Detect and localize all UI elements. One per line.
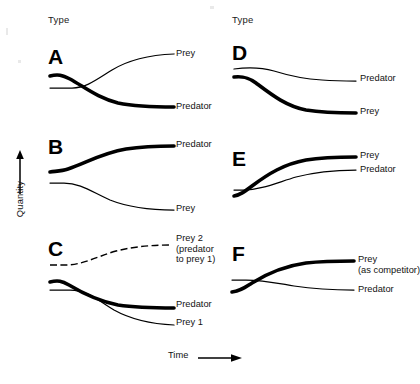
panel-e-label-predator: Predator	[360, 164, 396, 175]
x-axis-arrow-icon	[198, 352, 246, 364]
x-axis-label: Time	[168, 350, 188, 360]
panel-b-label-prey: Prey	[176, 203, 195, 214]
y-axis-label: Quantity	[15, 157, 25, 241]
panel-e-curve-prey	[234, 157, 356, 196]
column-header-right: Type	[232, 14, 253, 25]
panel-c-label-prey1: Prey 1	[176, 317, 203, 328]
panel-f-label-prey: Prey (as competitor)	[358, 254, 420, 275]
panel-d-plot	[230, 62, 380, 126]
panel-b-curve-predator	[50, 146, 174, 172]
panel-c-curve-prey2	[50, 245, 172, 265]
panel-e-label-prey: Prey	[360, 150, 379, 161]
panel-f-label-predator: Predator	[358, 284, 394, 295]
panel-e-plot	[230, 148, 380, 208]
panel-b-curve-prey	[50, 183, 174, 210]
panel-d-label-predator: Predator	[360, 73, 396, 84]
panel-f-curve-prey	[232, 261, 354, 292]
panel-letter-d: D	[232, 42, 247, 63]
panel-a-label-prey: Prey	[176, 48, 195, 59]
panel-b-label-predator: Predator	[176, 139, 212, 150]
column-header-left: Type	[48, 14, 69, 25]
panel-d-curve-prey	[234, 77, 356, 113]
panel-a-curve-prey	[50, 54, 174, 88]
panel-a-curve-predator	[50, 75, 174, 107]
panel-c-label-prey2: Prey 2 (predator to prey 1)	[176, 233, 215, 265]
panel-c-curve-predator	[50, 281, 174, 308]
y-axis: Quantity	[4, 150, 34, 260]
panel-d-label-prey: Prey	[360, 106, 379, 117]
panel-c-label-predator: Predator	[176, 299, 212, 310]
panel-a-label-predator: Predator	[176, 101, 212, 112]
panel-f-plot	[228, 252, 378, 312]
